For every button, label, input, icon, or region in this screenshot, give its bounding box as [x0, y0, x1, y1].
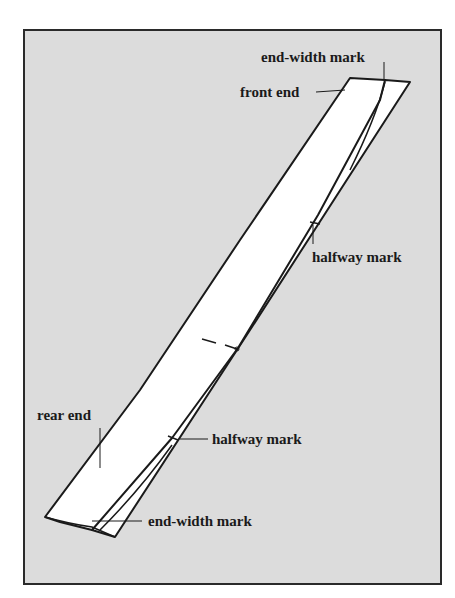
label-rear-end: rear end [37, 408, 91, 423]
label-bottom-end-width-mark: end-width mark [148, 514, 252, 529]
label-top-halfway-mark: halfway mark [312, 250, 402, 265]
strip-main [45, 78, 385, 530]
folded-strip-illustration [0, 0, 455, 598]
label-top-end-width-mark: end-width mark [261, 50, 365, 65]
label-front-end: front end [240, 85, 299, 100]
label-bottom-halfway-mark: halfway mark [212, 432, 302, 447]
